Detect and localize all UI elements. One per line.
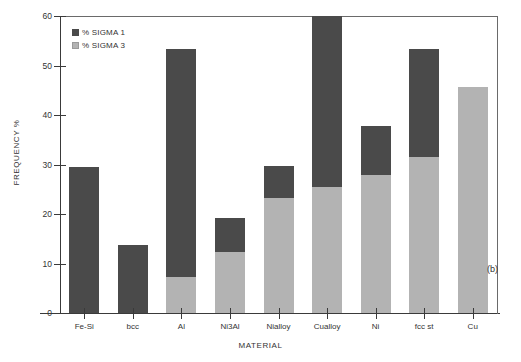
y-axis-label: FREQUENCY % [12,93,21,213]
x-tick-mark [279,308,280,319]
bar-segment-sigma1 [264,166,294,198]
bar-segment-sigma1 [118,245,148,313]
y-tick-label: 10 [26,259,52,269]
x-axis-label: MATERIAL [0,341,521,350]
bar-segment-sigma1 [166,49,196,277]
x-tick-mark [327,308,328,319]
y-tick-label: 50 [26,61,52,71]
x-tick-mark [376,308,377,319]
bar-ni [361,126,391,313]
bar-bcc [118,245,148,313]
x-tick-label: Cu [468,322,478,331]
x-tick-mark [424,308,425,319]
x-tick-mark [473,308,474,319]
bar-segment-sigma3 [458,87,488,313]
legend-item-sigma3: % SIGMA 3 [72,40,125,50]
legend-label-sigma1: % SIGMA 1 [82,28,125,37]
bar-cu [458,87,488,313]
y-tick-label: 0 [26,308,52,318]
x-tick-label: Ni [372,322,380,331]
bar-nialloy [264,166,294,313]
bar-fe-si [69,167,99,313]
bar-al [166,49,196,313]
bar-segment-sigma1 [409,49,439,157]
y-tick-label: 30 [26,160,52,170]
legend-swatch-sigma3-icon [72,42,79,49]
x-tick-label: Cualloy [314,322,341,331]
bar-segment-sigma3 [312,187,342,313]
y-tick-label: 40 [26,110,52,120]
y-tick-label: 20 [26,209,52,219]
bar-segment-sigma3 [215,252,245,313]
bar-segment-sigma1 [312,16,342,187]
x-axis-line [40,313,500,314]
legend-item-sigma1: % SIGMA 1 [72,27,125,37]
bar-ni3al [215,218,245,313]
bar-fcc-st [409,49,439,313]
bar-segment-sigma1 [361,126,391,175]
y-tick-mark [54,313,66,314]
x-tick-mark [230,308,231,319]
x-tick-label: Ni3Al [220,322,239,331]
x-tick-label: Al [178,322,185,331]
chart-legend: % SIGMA 1 % SIGMA 3 [72,27,125,53]
x-tick-label: Nialloy [266,322,290,331]
chart-figure: FREQUENCY % 0102030405060 Fe-SibccAlNi3A… [0,0,521,362]
x-tick-mark [181,308,182,319]
legend-swatch-sigma1-icon [72,29,79,36]
x-tick-label: fcc st [415,322,434,331]
bar-segment-sigma1 [69,167,99,313]
y-tick-label: 60 [26,11,52,21]
legend-label-sigma3: % SIGMA 3 [82,41,125,50]
x-tick-mark [84,308,85,319]
bar-segment-sigma3 [409,157,439,313]
bar-segment-sigma1 [215,218,245,251]
x-tick-label: Fe-Si [75,322,94,331]
x-tick-label: bcc [127,322,139,331]
x-tick-mark [133,308,134,319]
bar-cualloy [312,16,342,313]
plot-area [60,16,497,313]
bar-segment-sigma3 [361,175,391,313]
panel-label: (b) [487,264,498,274]
bar-segment-sigma3 [264,198,294,313]
